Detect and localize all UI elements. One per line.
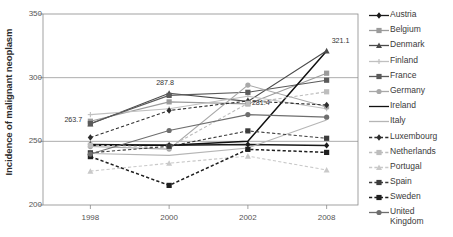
legend-item-austria[interactable]: Austria bbox=[368, 8, 453, 23]
legend-item-sweden[interactable]: Sweden bbox=[368, 190, 453, 205]
legend-key-icon bbox=[368, 175, 390, 190]
legend-item-portugal[interactable]: Portugal bbox=[368, 160, 453, 175]
legend-item-luxembourg[interactable]: Luxembourg bbox=[368, 130, 453, 145]
y-axis-tick-label: 300 bbox=[16, 74, 42, 82]
x-axis-tick-label: 2000 bbox=[149, 213, 189, 222]
legend-item-label: Finland bbox=[390, 54, 418, 66]
series-marker-circle bbox=[88, 151, 93, 156]
legend-key-icon bbox=[368, 38, 390, 53]
series-line-finland bbox=[90, 96, 326, 114]
legend-item-ireland[interactable]: Ireland bbox=[368, 99, 453, 114]
series-marker-square bbox=[167, 144, 172, 149]
series-marker-square bbox=[324, 150, 329, 155]
series-marker-square bbox=[324, 136, 329, 141]
legend-key-icon bbox=[368, 69, 390, 84]
legend-key-icon bbox=[368, 190, 390, 205]
series-marker-triangle bbox=[245, 153, 251, 159]
legend-key-icon bbox=[368, 8, 390, 23]
chart-container: Incidence of malignant neoplasm AustriaB… bbox=[0, 0, 453, 237]
legend-key-icon bbox=[368, 54, 390, 69]
plot-frame bbox=[43, 14, 358, 205]
series-marker-triangle bbox=[324, 48, 330, 54]
legend-key-icon bbox=[368, 99, 390, 114]
series-marker-square bbox=[324, 71, 329, 76]
legend-item-label: Austria bbox=[390, 8, 416, 20]
series-line-germany bbox=[90, 85, 326, 149]
series-marker-square bbox=[167, 99, 172, 104]
series-line-portugal bbox=[90, 156, 326, 171]
series-marker-square bbox=[88, 143, 93, 148]
x-axis-tick-label: 2008 bbox=[307, 213, 347, 222]
legend-item-france[interactable]: France bbox=[368, 69, 453, 84]
series-marker-diamond bbox=[324, 142, 329, 148]
series-marker-diamond bbox=[88, 134, 93, 140]
legend-item-label: France bbox=[390, 69, 416, 81]
legend-item-label: Belgium bbox=[390, 23, 421, 35]
legend-item-belgium[interactable]: Belgium bbox=[368, 23, 453, 38]
legend-key-icon bbox=[368, 23, 390, 38]
series-line-spain bbox=[90, 131, 326, 153]
series-marker-circle bbox=[245, 82, 250, 87]
data-point-label: 287.8 bbox=[156, 78, 174, 87]
legend-item-united-kingdom[interactable]: United Kingdom bbox=[368, 205, 453, 227]
legend-item-label: Italy bbox=[390, 114, 406, 126]
series-line-ireland bbox=[90, 51, 326, 145]
data-point-label: 263.7 bbox=[64, 115, 82, 124]
series-marker-square bbox=[245, 128, 250, 133]
data-point-label: 321.1 bbox=[332, 36, 350, 45]
legend-item-label: Portugal bbox=[390, 160, 422, 172]
chart-legend: AustriaBelgiumDenmarkFinlandFranceGerman… bbox=[368, 8, 453, 227]
legend-item-label: Sweden bbox=[390, 190, 421, 202]
data-point-label: 281.4 bbox=[252, 98, 270, 107]
legend-item-germany[interactable]: Germany bbox=[368, 84, 453, 99]
legend-item-denmark[interactable]: Denmark bbox=[368, 38, 453, 53]
y-axis-tick-label: 350 bbox=[16, 10, 42, 18]
legend-item-label: Germany bbox=[390, 84, 425, 96]
series-marker-square bbox=[167, 93, 172, 98]
legend-item-label: Spain bbox=[390, 175, 412, 187]
legend-item-finland[interactable]: Finland bbox=[368, 54, 453, 69]
legend-item-spain[interactable]: Spain bbox=[368, 175, 453, 190]
legend-key-icon bbox=[368, 130, 390, 145]
series-marker-square bbox=[88, 121, 93, 126]
series-marker-square bbox=[324, 89, 329, 94]
legend-key-icon bbox=[368, 84, 390, 99]
legend-item-label: Denmark bbox=[390, 38, 424, 50]
series-marker-circle bbox=[324, 115, 329, 120]
legend-item-label: Luxembourg bbox=[390, 130, 437, 142]
series-marker-square bbox=[245, 147, 250, 152]
y-axis-tick-label: 250 bbox=[16, 137, 42, 145]
series-marker-triangle bbox=[324, 167, 330, 173]
x-axis-tick-label: 2002 bbox=[228, 213, 268, 222]
legend-key-icon bbox=[368, 114, 390, 129]
series-marker-square bbox=[245, 90, 250, 95]
legend-item-label: Netherlands bbox=[390, 145, 436, 157]
series-marker-square bbox=[245, 101, 250, 106]
legend-key-icon bbox=[368, 145, 390, 160]
x-axis-tick-label: 1998 bbox=[70, 213, 110, 222]
series-marker-circle bbox=[245, 112, 250, 117]
series-marker-circle bbox=[167, 128, 172, 133]
legend-key-icon bbox=[368, 160, 390, 175]
series-marker-square bbox=[324, 78, 329, 83]
legend-key-icon bbox=[368, 205, 390, 220]
legend-item-label: United Kingdom bbox=[390, 205, 424, 226]
legend-item-label: Ireland bbox=[390, 99, 416, 111]
series-marker-square bbox=[167, 183, 172, 188]
legend-item-netherlands[interactable]: Netherlands bbox=[368, 145, 453, 160]
y-axis-tick-label: 200 bbox=[16, 201, 42, 209]
legend-item-italy[interactable]: Italy bbox=[368, 114, 453, 129]
